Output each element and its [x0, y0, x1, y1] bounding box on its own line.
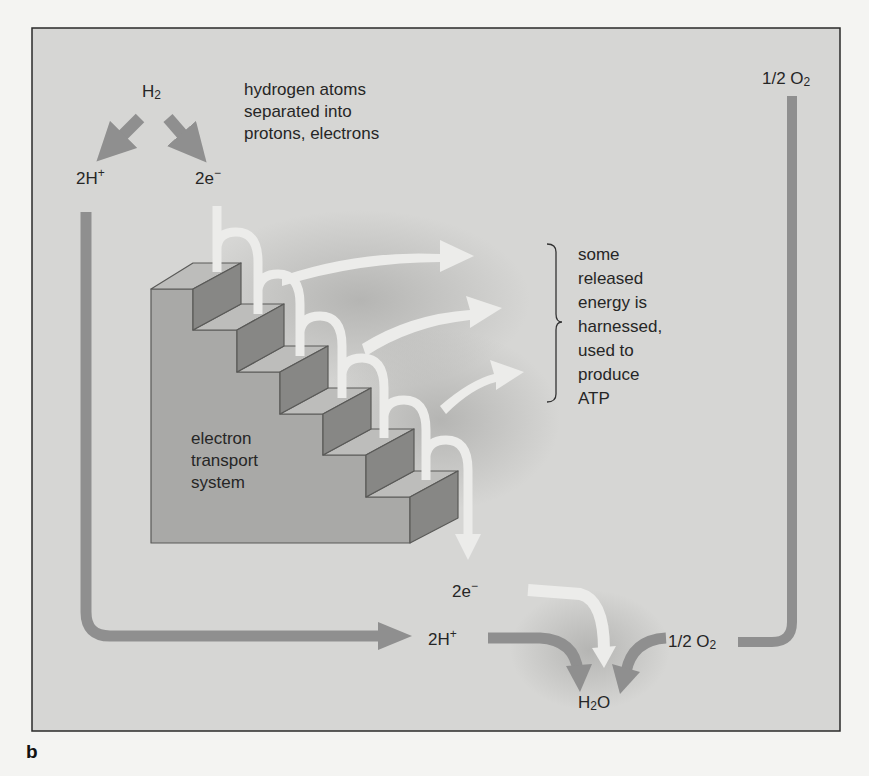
half-o2-top-label: 1/2 O2	[762, 68, 810, 91]
energy-note-line: produce	[578, 363, 662, 387]
diagram-canvas	[0, 0, 869, 776]
electron-transport-figure: H2 hydrogen atoms separated into protons…	[0, 0, 869, 776]
ets-label-line: electron	[191, 428, 258, 450]
energy-note-line: energy is	[578, 291, 662, 315]
half-o2-bottom-label: 1/2 O2	[668, 631, 716, 654]
ets-label-line: transport	[191, 450, 258, 472]
energy-note-line: some	[578, 243, 662, 267]
h2-label: H2	[142, 81, 161, 104]
panel-letter: b	[26, 741, 38, 763]
split-note: hydrogen atoms separated into protons, e…	[244, 79, 379, 145]
energy-note-line: ATP	[578, 387, 662, 411]
ets-label-line: system	[191, 472, 258, 494]
electrons-bottom-label: 2e−	[452, 581, 478, 604]
split-note-line: protons, electrons	[244, 123, 379, 145]
energy-note-line: harnessed,	[578, 315, 662, 339]
split-note-line: hydrogen atoms	[244, 79, 379, 101]
protons-bottom-label: 2H+	[428, 629, 457, 652]
electrons-top-label: 2e−	[195, 168, 221, 191]
energy-note: some released energy is harnessed, used …	[578, 243, 662, 411]
ets-label: electron transport system	[191, 428, 258, 494]
water-label: H2O	[578, 692, 610, 715]
energy-note-line: released	[578, 267, 662, 291]
split-note-line: separated into	[244, 101, 379, 123]
protons-top-label: 2H+	[76, 168, 105, 191]
energy-note-line: used to	[578, 339, 662, 363]
